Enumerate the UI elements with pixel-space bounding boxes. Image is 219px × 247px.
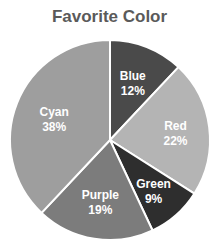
slice-percent-red: 22% [163, 134, 187, 148]
pie-chart: Blue12%Red22%Green9%Purple19%Cyan38% [0, 0, 219, 247]
slice-label-purple: Purple [82, 188, 120, 202]
slice-label-blue: Blue [120, 69, 146, 83]
slice-label-red: Red [164, 119, 187, 133]
slice-label-green: Green [136, 177, 171, 191]
slice-percent-purple: 19% [88, 203, 112, 217]
slice-label-cyan: Cyan [40, 105, 69, 119]
slice-percent-blue: 12% [121, 84, 145, 98]
slice-percent-cyan: 38% [42, 120, 66, 134]
slice-percent-green: 9% [145, 192, 163, 206]
